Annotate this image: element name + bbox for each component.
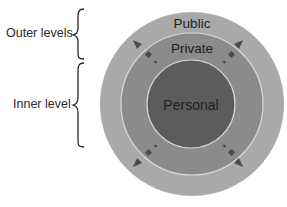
personal-label: Personal xyxy=(163,97,218,113)
inner-level-brace xyxy=(73,63,84,147)
public-label: Public xyxy=(174,16,211,31)
outer-levels-brace xyxy=(73,9,84,59)
private-label: Private xyxy=(171,41,213,56)
concentric-diagram: Public Private Personal xyxy=(0,0,287,207)
